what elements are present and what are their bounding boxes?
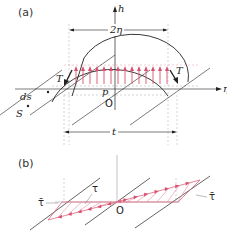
pressure-arrowhead: [130, 66, 134, 71]
pressure-arrowhead: [158, 66, 162, 71]
pressure-arrows: [74, 66, 169, 84]
eta-axis-arrow: [216, 87, 222, 91]
panel-b-label: (b): [18, 157, 34, 170]
s-label: S: [16, 108, 23, 119]
ds-point: [47, 91, 49, 93]
dim-t-arrow-left: [64, 131, 69, 134]
pressure-arrowhead: [109, 66, 113, 71]
s-point: [27, 105, 29, 107]
pressure-arrowhead: [123, 66, 127, 71]
tau-label: τ: [92, 183, 98, 194]
eta-axis-label: η: [223, 83, 227, 94]
tau-bar-right-label: τ̄: [209, 191, 215, 202]
arc-edge-left: [72, 58, 84, 96]
pressure-arrowhead: [102, 66, 106, 71]
pressure-arrowhead: [116, 66, 120, 71]
dim-2eta-arrow-left: [69, 29, 74, 32]
origin-a-label: O: [105, 98, 113, 109]
h-axis-arrow: [113, 6, 117, 12]
shear-arrowhead: [155, 190, 159, 194]
tau-bar-left-label: τ̄: [38, 197, 44, 208]
pressure-arrowhead: [88, 66, 92, 71]
shear-arrowhead: [87, 207, 91, 211]
dim-2eta-label: 2η: [109, 24, 122, 35]
shear-arrowhead: [78, 209, 82, 213]
diagram: (a) h η 2η t T T p O ds S (b): [0, 0, 227, 235]
ds-label: ds: [20, 91, 32, 102]
shear-arrowhead: [97, 204, 101, 208]
tension-left-label: T: [56, 73, 64, 84]
panel-a-label: (a): [18, 6, 33, 19]
pressure-label: p: [102, 86, 109, 97]
shear-arrowhead: [134, 196, 138, 200]
shear-arrowhead: [68, 212, 72, 216]
origin-b-label: O: [116, 205, 124, 216]
shear-hatch: [157, 188, 169, 202]
tension-right-label: T: [176, 65, 184, 76]
tension-arrowhead-right: [173, 77, 178, 84]
slant-4: [130, 68, 210, 125]
pressure-arrowhead: [144, 66, 148, 71]
h-axis-label: h: [118, 3, 124, 14]
shear-arrowhead: [144, 193, 148, 197]
dim-t-arrow-right: [172, 131, 177, 134]
pressure-arrowhead: [151, 66, 155, 71]
dim-2eta-arrow-right: [163, 29, 168, 32]
tau-bar-right-leader: [196, 195, 207, 197]
slant-2: [30, 55, 115, 115]
pressure-arrowhead: [74, 66, 78, 71]
pressure-arrowhead: [137, 66, 141, 71]
pressure-arrowhead: [165, 66, 169, 71]
